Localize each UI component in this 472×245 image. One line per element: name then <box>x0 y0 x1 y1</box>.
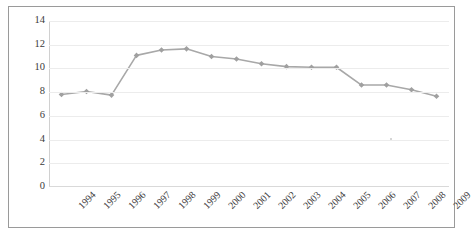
x-tick-label-2007: 2007 <box>400 189 422 211</box>
x-tick-label-1995: 1995 <box>100 189 122 211</box>
data-point-2007[interactable] <box>384 82 390 88</box>
plot-area <box>49 21 449 187</box>
y-tick-label-4: 4 <box>19 134 45 145</box>
y-tick-label-14: 14 <box>19 15 45 26</box>
x-tick-label-2006: 2006 <box>375 189 397 211</box>
gridline-y-8 <box>49 92 449 93</box>
x-tick-label-2005: 2005 <box>350 189 372 211</box>
data-point-2002[interactable] <box>259 61 265 67</box>
x-tick-label-1998: 1998 <box>175 189 197 211</box>
y-tick-label-12: 12 <box>19 39 45 50</box>
x-tick-label-2002: 2002 <box>275 189 297 211</box>
y-tick-label-0: 0 <box>19 181 45 192</box>
x-tick-label-2003: 2003 <box>300 189 322 211</box>
gridline-y-6 <box>49 116 449 117</box>
y-tick-label-8: 8 <box>19 86 45 97</box>
gridline-y-2 <box>49 163 449 164</box>
chart-frame: 02468101214 1994199519961997199819992000… <box>8 6 455 228</box>
x-tick-label-2000: 2000 <box>225 189 247 211</box>
data-point-2009[interactable] <box>434 93 440 99</box>
gridline-y-4 <box>49 140 449 141</box>
x-tick-label-2001: 2001 <box>250 189 272 211</box>
data-point-2001[interactable] <box>234 56 240 62</box>
chart-plot-wrapper: 02468101214 1994199519961997199819992000… <box>9 7 456 229</box>
series-line <box>62 49 437 96</box>
x-tick-label-1996: 1996 <box>125 189 147 211</box>
y-tick-label-6: 6 <box>19 110 45 121</box>
x-tick-label-1997: 1997 <box>150 189 172 211</box>
x-tick-label-2009: 2009 <box>450 189 472 211</box>
x-tick-label-1999: 1999 <box>200 189 222 211</box>
x-tick-label-2004: 2004 <box>325 189 347 211</box>
x-tick-label-2008: 2008 <box>425 189 447 211</box>
data-point-1999[interactable] <box>184 46 190 52</box>
y-axis-tick-labels: 02468101214 <box>17 7 45 229</box>
gridline-y-10 <box>49 68 449 69</box>
data-point-2000[interactable] <box>209 54 215 60</box>
gridline-y-12 <box>49 45 449 46</box>
data-point-1998[interactable] <box>159 47 165 53</box>
y-tick-label-2: 2 <box>19 157 45 168</box>
x-axis-tick-labels: 1994199519961997199819992000200120022003… <box>49 189 449 229</box>
y-tick-label-10: 10 <box>19 62 45 73</box>
line-series <box>49 21 449 187</box>
x-tick-label-1994: 1994 <box>75 189 97 211</box>
gridline-y-14 <box>49 21 449 22</box>
